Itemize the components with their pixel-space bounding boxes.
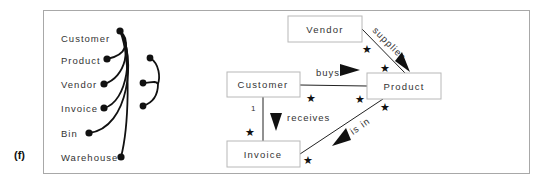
item-label-product: Product — [61, 55, 101, 66]
mult-is-in-product: ★ — [380, 101, 390, 113]
dot-invoice — [100, 104, 107, 111]
left-diagram: Customer Product Vendor Invoice Bin Ware… — [61, 27, 159, 163]
mult-receives-customer: 1 — [251, 104, 256, 113]
class-vendor-name: Vendor — [306, 24, 343, 35]
class-invoice-name: Invoice — [244, 149, 283, 160]
dot-cluster-top — [147, 55, 154, 62]
assoc-label-buys: buys — [316, 67, 340, 78]
mult-supplies-vendor: ★ — [362, 43, 372, 55]
class-customer-name: Customer — [238, 79, 289, 90]
item-label-customer: Customer — [61, 33, 110, 44]
mult-supplies-product: ★ — [380, 62, 390, 74]
edge-buys — [300, 85, 367, 86]
dot-vendor — [100, 80, 107, 87]
arrow-buys-icon — [340, 64, 360, 76]
assoc-label-is-in: is in — [348, 115, 372, 137]
dot-product — [103, 55, 110, 62]
item-label-vendor: Vendor — [61, 79, 97, 90]
mult-receives-invoice: ★ — [245, 126, 255, 138]
link-cluster-top — [150, 58, 159, 84]
class-product-name: Product — [383, 81, 424, 92]
class-product: Product — [367, 73, 441, 99]
assoc-label-receives: receives — [287, 112, 330, 123]
dot-warehouse — [117, 153, 124, 160]
diagram-canvas: Customer Product Vendor Invoice Bin Ware… — [0, 0, 556, 183]
dot-cluster-mid — [140, 80, 147, 87]
dot-bin — [85, 129, 92, 136]
dot-customer — [116, 27, 123, 34]
arrow-receives-icon — [270, 113, 282, 131]
class-vendor: Vendor — [288, 16, 362, 42]
edge-is-in — [300, 99, 383, 154]
dot-cluster-bottom — [140, 103, 147, 110]
mult-is-in-invoice: ★ — [303, 154, 313, 166]
right-diagram: Vendor Customer Product Invoice supplies… — [227, 16, 441, 167]
item-label-invoice: Invoice — [61, 103, 98, 114]
class-customer: Customer — [227, 72, 300, 97]
mult-buys-product: ★ — [355, 93, 365, 105]
link-cluster-bottom — [143, 84, 158, 106]
class-invoice: Invoice — [227, 141, 300, 167]
item-label-warehouse: Warehouse — [61, 152, 118, 163]
item-label-bin: Bin — [61, 128, 78, 139]
mult-buys-customer: ★ — [306, 92, 316, 104]
